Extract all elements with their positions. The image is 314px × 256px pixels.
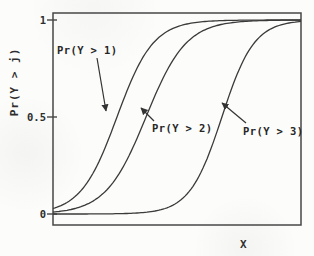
annotation-arrow-2 [141, 108, 154, 121]
y-tick-label: 0 [24, 208, 46, 220]
y-tick-label: 0.5 [24, 111, 46, 123]
annotation-label-3: Pr(Y > 3) [243, 125, 304, 137]
logistic-curves-figure: Pr(Y > j) X 10.50 Pr(Y > 1)Pr(Y > 2)Pr(Y… [0, 0, 314, 256]
annotation-arrow-3 [222, 103, 246, 123]
annotation-label-2: Pr(Y > 2) [152, 122, 213, 134]
annotation-arrow-1 [97, 58, 106, 111]
y-axis-title: Pr(Y > j) [8, 48, 21, 117]
y-tick-label: 1 [24, 14, 46, 26]
y-axis-ticks [47, 20, 57, 214]
x-axis-title: X [240, 238, 247, 251]
annotation-label-1: Pr(Y > 1) [57, 44, 118, 56]
